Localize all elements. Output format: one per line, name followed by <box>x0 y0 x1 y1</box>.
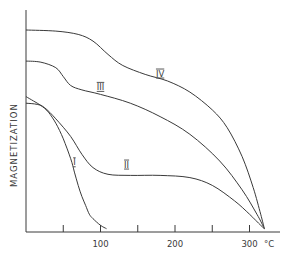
curve-label-ii: II <box>124 160 129 170</box>
axes <box>26 10 280 232</box>
curves <box>26 30 264 229</box>
curve-label-i: I <box>73 157 76 167</box>
x-unit-label: °C <box>264 239 274 249</box>
magnetization-vs-temperature-chart: 100200300 IIIIIIIV MAGNETIZATION °C <box>0 0 290 254</box>
curve-i <box>26 97 107 229</box>
curve-ii <box>26 103 264 229</box>
curve-label-iv: IV <box>156 69 165 79</box>
curve-iii <box>26 61 264 229</box>
x-ticks: 100200300 <box>63 225 257 249</box>
y-axis-label: MAGNETIZATION <box>9 103 19 187</box>
x-tick-label: 200 <box>167 239 183 249</box>
curve-label-iii: III <box>97 82 105 92</box>
curve-labels: IIIIIIIV <box>73 69 164 170</box>
curve-iv <box>26 30 264 229</box>
x-tick-label: 100 <box>92 239 108 249</box>
x-tick-label: 300 <box>241 239 257 249</box>
